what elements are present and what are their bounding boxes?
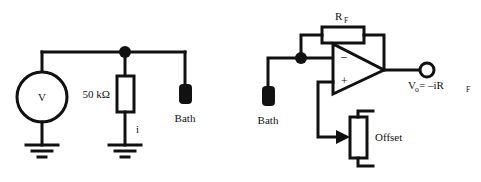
feedback-resistor-label-group: R F [335,10,348,25]
output-label-equation-sub: F [466,85,470,94]
ground-symbol-resistor [109,145,141,157]
bath-electrode-symbol-left [179,84,192,104]
output-equation-group: V o = –iR F [408,79,470,94]
resistor-50k-symbol [117,76,134,112]
bath-label-right: Bath [258,114,279,126]
offset-label: Offset [375,131,402,143]
resistor-50k-label: 50 kΩ [83,88,110,100]
bath-electrode-symbol-right [262,86,275,106]
current-label-i: i [136,123,139,135]
opamp-noninverting-label: + [341,75,348,87]
circuit-svg: V 50 kΩ i [0,0,481,182]
potentiometer-wiper-arrow [336,130,350,144]
opamp-inverting-label: – [340,50,347,62]
feedback-resistor-label: R [335,10,343,22]
circuit-figure: V 50 kΩ i [0,0,481,182]
ground-symbol-source [26,145,58,157]
voltage-source-label: V [38,91,46,103]
feedback-resistor-symbol [322,27,364,43]
left-circuit-group: V 50 kΩ i [17,46,196,157]
right-bath-lead [268,58,301,86]
output-label-equation: = –iR [419,79,445,91]
right-circuit-group: R F Bath – + Offset [258,10,471,166]
feedback-resistor-label-sub: F [344,16,348,25]
bath-label-left: Bath [175,112,196,124]
output-terminal-node [420,63,434,77]
offset-potentiometer-symbol [350,117,367,158]
